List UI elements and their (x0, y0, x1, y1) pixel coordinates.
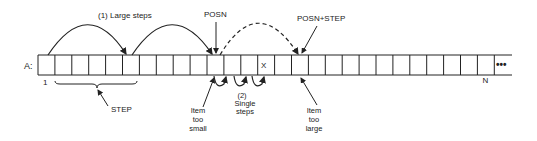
item-too-small-line-3: small (189, 124, 207, 133)
item-too-large-arrow (301, 78, 317, 105)
step-label: STEP (111, 105, 132, 114)
step-arrow (98, 90, 108, 106)
item-too-small-arrow (203, 78, 214, 107)
array-label: A: (24, 61, 33, 71)
item-too-small-line-2: too (193, 115, 203, 124)
array (38, 55, 512, 75)
last-index-label: N (482, 76, 488, 85)
large-step-arcs (48, 23, 298, 55)
single-step-loops (214, 76, 264, 86)
item-too-large-line-2: too (309, 115, 319, 124)
item-too-large-line-3: large (306, 124, 323, 133)
posn-label: POSN (204, 10, 227, 19)
binary-jump-search-diagram: A: 1 N ••• X (1) Large steps POSN POSN+S… (0, 0, 537, 141)
large-steps-label: (1) Large steps (98, 11, 152, 20)
step-brace (55, 81, 137, 88)
target-item: X (261, 61, 267, 70)
item-too-large-line-1: Item (307, 106, 322, 115)
item-too-small-line-1: Item (191, 106, 206, 115)
posn-step-label: POSN+STEP (297, 14, 345, 23)
ellipsis: ••• (496, 59, 507, 70)
first-index-label: 1 (43, 78, 48, 87)
posn-step-arrow (302, 26, 317, 53)
single-steps-line-3: steps (236, 107, 254, 116)
